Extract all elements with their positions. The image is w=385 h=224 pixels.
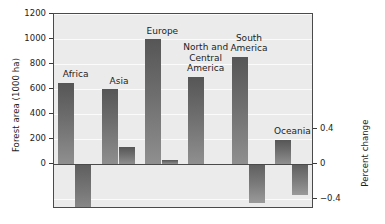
- forest-area-percent-change-chart: Forest area (1000 ha) Percent change Afr…: [0, 0, 385, 224]
- bar-forest-area: [145, 39, 161, 164]
- y-axis-right-tick-label: 0: [320, 159, 325, 168]
- bar-forest-area: [275, 140, 291, 164]
- plot-area: AfricaAsiaEuropeNorth and Central Americ…: [53, 13, 313, 208]
- y-axis-left-tick: [49, 113, 53, 114]
- y-axis-right-tick-label: 0.4: [320, 124, 334, 133]
- y-axis-left-tick: [49, 38, 53, 39]
- gridline: [54, 199, 312, 200]
- bar-forest-area: [188, 77, 204, 165]
- y-axis-left-tick-label: 1000: [24, 34, 46, 43]
- gridline: [54, 14, 312, 15]
- zero-axis-line: [54, 164, 312, 165]
- y-axis-left-title: Forest area (1000 ha): [11, 45, 21, 165]
- y-axis-left-tick-label: 800: [30, 59, 46, 68]
- y-axis-right-tick: [313, 128, 317, 129]
- y-axis-left-tick-label: 600: [30, 84, 46, 93]
- y-axis-left-tick: [49, 163, 53, 164]
- y-axis-left-tick-label: 1200: [24, 9, 46, 18]
- y-axis-left-tick: [49, 88, 53, 89]
- y-axis-left-tick-label: 0: [41, 159, 46, 168]
- gridline: [54, 139, 312, 140]
- y-axis-left-tick: [49, 138, 53, 139]
- y-axis-right-tick-label: −0.4: [320, 194, 341, 203]
- y-axis-left-tick: [49, 13, 53, 14]
- y-axis-left-tick: [49, 63, 53, 64]
- bar-percent-change: [292, 164, 308, 195]
- y-axis-right-title: Percent change: [360, 98, 370, 208]
- category-label: South America: [217, 33, 280, 54]
- y-axis-right-tick: [313, 198, 317, 199]
- bar-percent-change: [119, 147, 135, 165]
- gridline: [54, 89, 312, 90]
- bar-percent-change: [75, 164, 91, 208]
- category-label: Europe: [131, 26, 194, 37]
- bar-forest-area: [58, 83, 74, 164]
- category-label: Oceania: [261, 126, 313, 137]
- gridline: [54, 114, 312, 115]
- y-axis-left-tick-label: 400: [30, 109, 46, 118]
- bar-forest-area: [102, 89, 118, 164]
- category-label: Asia: [87, 76, 150, 87]
- y-axis-left-tick-label: 200: [30, 134, 46, 143]
- bar-percent-change: [249, 164, 265, 203]
- y-axis-right-tick: [313, 163, 317, 164]
